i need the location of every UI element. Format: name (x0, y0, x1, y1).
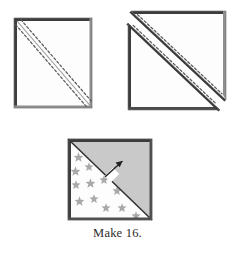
step-2-lower-bottom-edge (128, 107, 220, 110)
figure-caption: Make 16. (0, 226, 235, 241)
step-3-finished-block (68, 139, 152, 220)
step-2-upper-top-edge (131, 11, 226, 14)
step-2-cut-triangles (126, 11, 226, 111)
step-2-lower-left-edge (128, 23, 131, 110)
quilting-illustration: Make 16. (0, 0, 235, 254)
illustration-canvas (0, 0, 235, 254)
step-1-marked-square (14, 18, 92, 108)
step-2-upper-right-edge (223, 11, 226, 100)
